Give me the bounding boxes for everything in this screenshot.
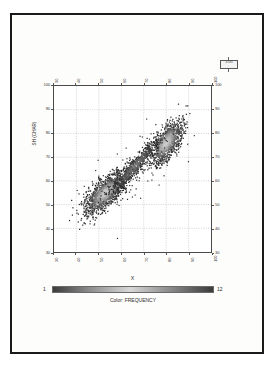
corner-annotation: 47094 — [218, 57, 240, 73]
tick-mark — [51, 133, 53, 134]
x-tick-bottom-60: 60 — [123, 257, 127, 261]
x-tick-top-50: 50 — [100, 78, 104, 82]
corner-note-text: 47094 — [225, 61, 232, 64]
y-tick-left-50: 50 — [36, 203, 50, 207]
x-tick-bottom-100: 100 — [214, 255, 218, 262]
y-tick-right-80: 80 — [215, 131, 229, 135]
tick-mark — [144, 253, 145, 255]
x-tick-top-80: 80 — [168, 78, 172, 82]
tick-mark — [212, 133, 214, 134]
tick-mark — [53, 83, 54, 85]
x-tick-bottom-30: 30 — [55, 257, 59, 261]
tick-mark — [144, 83, 145, 85]
tick-mark — [189, 83, 190, 85]
tick-mark — [51, 109, 53, 110]
x-axis-title: X — [53, 275, 212, 281]
tick-mark — [75, 83, 76, 85]
scatter-points — [54, 86, 211, 252]
x-tick-bottom-80: 80 — [168, 257, 172, 261]
page: 47094 SH (CHAR) X 1 12 Color: FREQUENCY … — [0, 0, 276, 371]
y-tick-left-40: 40 — [36, 227, 50, 231]
plot-area — [53, 85, 212, 253]
tick-mark — [166, 253, 167, 255]
tick-mark — [51, 181, 53, 182]
colorbar-caption: Color: FREQUENCY — [35, 297, 231, 303]
colorbar-gradient — [52, 286, 214, 293]
x-tick-bottom-90: 90 — [191, 257, 195, 261]
tick-mark — [98, 253, 99, 255]
y-tick-left-80: 80 — [36, 131, 50, 135]
tick-mark — [51, 229, 53, 230]
x-tick-top-70: 70 — [145, 78, 149, 82]
y-tick-right-70: 70 — [215, 155, 229, 159]
figure-container: 47094 SH (CHAR) X 1 12 Color: FREQUENCY … — [10, 13, 264, 354]
tick-mark — [98, 83, 99, 85]
corner-annotation-box: 47094 — [220, 60, 238, 69]
tick-mark — [166, 83, 167, 85]
tick-mark — [212, 181, 214, 182]
tick-mark — [75, 253, 76, 255]
tick-mark — [212, 83, 213, 85]
y-tick-right-100: 100 — [215, 83, 229, 87]
x-tick-bottom-40: 40 — [77, 257, 81, 261]
y-tick-left-30: 30 — [36, 251, 50, 255]
x-tick-top-60: 60 — [123, 78, 127, 82]
tick-mark — [212, 109, 214, 110]
tick-mark — [212, 253, 214, 254]
y-tick-right-50: 50 — [215, 203, 229, 207]
tick-mark — [121, 83, 122, 85]
colorbar-container: 1 12 Color: FREQUENCY — [35, 286, 231, 308]
colorbar-max-label: 12 — [217, 286, 223, 292]
y-tick-right-40: 40 — [215, 227, 229, 231]
x-tick-bottom-70: 70 — [145, 257, 149, 261]
tick-mark — [53, 253, 54, 255]
y-tick-right-90: 90 — [215, 107, 229, 111]
tick-mark — [121, 253, 122, 255]
y-tick-left-70: 70 — [36, 155, 50, 159]
x-tick-bottom-50: 50 — [100, 257, 104, 261]
y-tick-left-60: 60 — [36, 179, 50, 183]
y-tick-right-60: 60 — [215, 179, 229, 183]
x-tick-top-100: 100 — [214, 76, 218, 83]
tick-mark — [212, 205, 214, 206]
tick-mark — [212, 85, 214, 86]
tick-mark — [212, 253, 213, 255]
colorbar-min-label: 1 — [43, 286, 46, 292]
y-tick-left-90: 90 — [36, 107, 50, 111]
x-tick-top-40: 40 — [77, 78, 81, 82]
tick-mark — [212, 157, 214, 158]
x-tick-top-90: 90 — [191, 78, 195, 82]
tick-mark — [51, 205, 53, 206]
tick-mark — [51, 157, 53, 158]
tick-mark — [189, 253, 190, 255]
x-tick-top-30: 30 — [55, 78, 59, 82]
tick-mark — [212, 229, 214, 230]
y-tick-left-100: 100 — [36, 83, 50, 87]
